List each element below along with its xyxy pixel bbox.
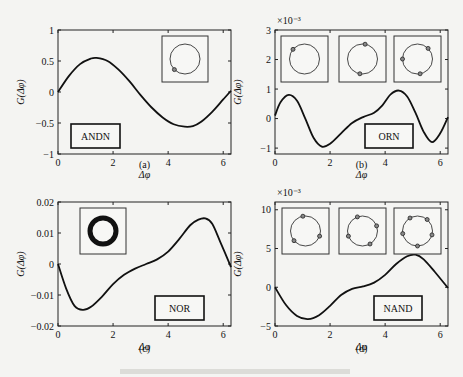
- gate-label: NOR: [169, 303, 190, 314]
- x-tick-label: 0: [56, 157, 61, 168]
- exponent-label: ×10⁻³: [277, 15, 301, 26]
- y-axis-label: G(Δφ): [232, 79, 244, 105]
- ring-inset: [394, 208, 441, 254]
- y-tick-label: −0.02: [31, 321, 54, 332]
- figure: 0246−1−0.500.51ΔφG(Δφ)(a)ANDN0246−10123×…: [0, 0, 463, 377]
- y-tick-label: −5: [260, 321, 271, 332]
- y-tick-label: 5: [266, 243, 271, 254]
- x-tick-label: 6: [221, 329, 226, 340]
- panel-label: (a): [139, 159, 150, 171]
- oscillator-marker-icon: [292, 239, 296, 243]
- y-tick-label: 1: [49, 25, 54, 36]
- oscillator-marker-icon: [416, 244, 420, 248]
- oscillator-marker-icon: [291, 47, 295, 51]
- y-tick-label: 1: [266, 84, 271, 95]
- x-tick-label: 0: [273, 329, 278, 340]
- y-tick-label: 3: [266, 25, 271, 36]
- exponent-label: ×10⁻³: [277, 187, 301, 198]
- subplot-d: 0246−50510×10⁻³ΔφG(Δφ)(d)NAND: [232, 187, 448, 355]
- y-tick-label: −0.5: [36, 118, 54, 129]
- oscillator-marker-icon: [172, 68, 176, 72]
- panel-label: (c): [139, 343, 150, 355]
- x-axis-label: Δφ: [355, 169, 368, 180]
- y-tick-label: −0.01: [31, 290, 54, 301]
- oscillator-marker-icon: [375, 224, 379, 228]
- oscillator-marker-icon: [408, 216, 412, 220]
- x-tick-label: 2: [328, 157, 333, 168]
- y-tick-label: 2: [266, 54, 271, 65]
- oscillator-marker-icon: [355, 215, 359, 219]
- x-tick-label: 4: [383, 157, 388, 168]
- y-tick-label: 0.02: [37, 197, 55, 208]
- y-tick-label: 0: [266, 113, 271, 124]
- x-tick-label: 4: [383, 329, 388, 340]
- y-tick-label: 0: [49, 87, 54, 98]
- gate-label: ANDN: [81, 131, 110, 142]
- oscillator-marker-icon: [401, 232, 405, 236]
- subplot-a: 0246−1−0.500.51ΔφG(Δφ)(a)ANDN: [15, 25, 231, 181]
- oscillator-marker-icon: [368, 242, 372, 246]
- oscillator-marker-icon: [363, 42, 367, 46]
- y-tick-label: −1: [43, 149, 54, 160]
- oscillator-marker-icon: [426, 46, 430, 50]
- x-tick-label: 0: [56, 329, 61, 340]
- oscillator-marker-icon: [425, 218, 429, 222]
- y-tick-label: 0: [49, 259, 54, 270]
- figure-caption-blur: [120, 369, 350, 374]
- oscillator-marker-icon: [301, 214, 305, 218]
- x-tick-label: 6: [438, 329, 443, 340]
- oscillator-marker-icon: [430, 233, 434, 237]
- x-tick-label: 6: [438, 157, 443, 168]
- oscillator-marker-icon: [346, 234, 350, 238]
- ring-inset: [339, 208, 386, 254]
- x-tick-label: 2: [111, 157, 116, 168]
- x-tick-label: 2: [328, 329, 333, 340]
- oscillator-marker-icon: [401, 57, 405, 61]
- ring-inset: [282, 208, 329, 254]
- x-tick-label: 2: [111, 329, 116, 340]
- x-axis-label: Δφ: [138, 169, 151, 180]
- x-tick-label: 4: [166, 157, 171, 168]
- ring-inset: [394, 36, 441, 82]
- y-tick-label: 10: [261, 204, 271, 215]
- ring-inset: [162, 36, 208, 82]
- x-tick-label: 4: [166, 329, 171, 340]
- y-tick-label: 0.5: [42, 56, 55, 67]
- oscillator-marker-icon: [318, 234, 322, 238]
- y-axis-label: G(Δφ): [232, 251, 244, 277]
- ring-inset: [80, 208, 126, 254]
- x-tick-label: 6: [221, 157, 226, 168]
- oscillator-marker-icon: [358, 72, 362, 76]
- panel-label: (b): [356, 159, 368, 171]
- gate-label: ORN: [378, 131, 399, 142]
- y-tick-label: 0.01: [37, 228, 55, 239]
- ring-inset: [281, 36, 328, 82]
- gate-label: NAND: [384, 303, 413, 314]
- ring-inset: [339, 36, 386, 82]
- panel-label: (d): [356, 343, 368, 355]
- subplot-b: 0246−10123×10⁻³ΔφG(Δφ)(b)ORN: [232, 15, 448, 180]
- y-tick-label: −1: [260, 143, 271, 154]
- subplot-c: 0246−0.02−0.0100.010.02ΔφG(Δφ)(c)NOR: [15, 197, 231, 356]
- oscillator-marker-icon: [418, 72, 422, 76]
- x-tick-label: 0: [273, 157, 278, 168]
- y-axis-label: G(Δφ): [15, 251, 27, 277]
- y-axis-label: G(Δφ): [15, 79, 27, 105]
- y-tick-label: 0: [266, 282, 271, 293]
- data-curve: [275, 90, 448, 146]
